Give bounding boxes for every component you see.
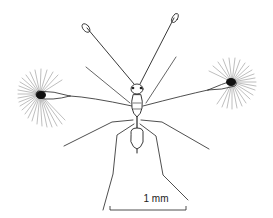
insect-illustration: 1 mm [0, 0, 273, 218]
scale-bar [110, 206, 186, 210]
scale-bar-label: 1 mm [126, 193, 186, 204]
antennae [80, 12, 179, 84]
right-wing-spot [226, 78, 236, 86]
insect-body-group [18, 12, 256, 210]
gaster [131, 128, 143, 149]
fairyfly-drawing [0, 0, 273, 218]
thorax [132, 95, 143, 117]
left-wing-spot [36, 91, 46, 99]
